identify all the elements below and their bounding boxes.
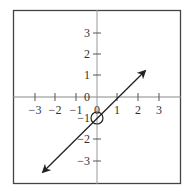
x-label-0: 0: [94, 103, 100, 117]
x-label-neg3: −3: [29, 103, 42, 117]
y-label-3: 3: [84, 26, 90, 40]
graph-line: [43, 71, 145, 172]
y-label-neg2: −2: [77, 132, 90, 146]
y-label-2: 2: [84, 47, 90, 61]
y-label-1: 1: [84, 68, 90, 82]
x-label-3: 3: [156, 103, 162, 117]
y-label-0: 0: [84, 90, 90, 104]
x-label-neg2: −2: [49, 103, 62, 117]
x-label-1: 1: [114, 103, 120, 117]
y-label-neg3: −3: [77, 154, 90, 168]
coordinate-plane: −3 −2 −1 0 1 2 3 0 3 2 1 −1 −2 −3: [0, 0, 188, 191]
x-label-2: 2: [135, 103, 141, 117]
y-label-neg1: −1: [77, 111, 90, 125]
